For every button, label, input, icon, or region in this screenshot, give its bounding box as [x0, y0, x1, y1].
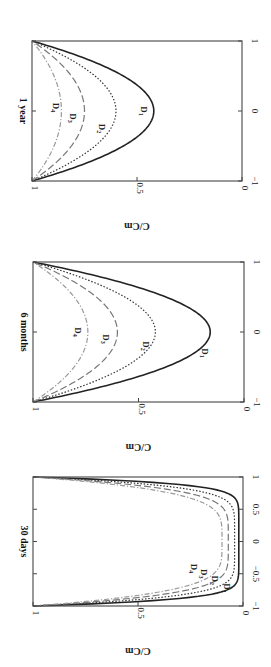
curve-label-d3: D3: [198, 569, 209, 579]
y-tick-label: 0: [242, 407, 252, 412]
x-tick-label: −0.5: [251, 566, 261, 583]
y-axis-label: C/Cm: [125, 442, 151, 453]
figure-three-panels: 00.51−1011 yearC/CmD1D2D3D400.51−1016 mo…: [0, 0, 271, 667]
x-tick-label: 0.5: [251, 504, 261, 516]
x-tick-label: −1: [250, 176, 260, 186]
plot-frame: [32, 41, 242, 181]
curve-label-d1: D1: [138, 106, 149, 116]
chart-panel-6-months: 00.51−1016 monthsC/CmD1D2D3D4: [19, 260, 262, 453]
x-tick-label: −1: [252, 397, 262, 407]
y-tick-label: 0.5: [137, 403, 147, 415]
chart-panel-1-year: 00.51−1011 yearC/CmD1D2D3D4: [18, 39, 260, 232]
y-tick-label: 1: [31, 611, 41, 616]
curve-d1: [33, 262, 210, 402]
y-tick-label: 0.5: [136, 607, 146, 619]
y-axis-label: C/Cm: [125, 646, 151, 657]
plot-frame: [33, 262, 244, 402]
curve-label-d3: D3: [67, 113, 78, 123]
curve-d2: [33, 477, 235, 606]
panel-title: 1 year: [18, 98, 29, 125]
panel-title: 30 days: [19, 526, 30, 558]
curve-label-d4: D4: [188, 564, 199, 574]
curve-label-d2: D2: [96, 124, 107, 134]
y-tick-label: 0: [240, 186, 250, 191]
x-tick-label: 0: [250, 109, 260, 114]
y-tick-label: 1: [31, 407, 41, 412]
curve-d2: [32, 41, 116, 181]
x-tick-label: −1: [251, 601, 261, 611]
x-tick-label: 1: [250, 39, 260, 44]
x-tick-label: 1: [252, 260, 262, 265]
curve-d1: [33, 477, 239, 606]
curve-d4: [33, 477, 222, 606]
curve-d4: [32, 41, 61, 181]
curve-label-d1: D1: [199, 348, 210, 358]
curve-label-d4: D4: [72, 327, 83, 337]
curve-label-d1: D1: [221, 583, 232, 593]
curve-d3: [32, 41, 85, 181]
curve-d3: [33, 477, 228, 606]
x-tick-label: 0: [251, 539, 261, 544]
curve-label-d4: D4: [50, 103, 61, 113]
x-tick-label: 0: [252, 330, 262, 335]
plot-frame: [33, 477, 243, 606]
chart-panel-30-days: 00.51−1−0.500.5130 daysC/CmD1D2D3D4: [19, 475, 261, 657]
panel-title: 6 months: [19, 312, 30, 351]
curve-d2: [33, 262, 155, 402]
curve-label-d2: D2: [209, 575, 220, 585]
curve-label-d3: D3: [100, 334, 111, 344]
y-axis-label: C/Cm: [124, 221, 150, 232]
y-tick-label: 0: [241, 611, 251, 616]
x-tick-label: 1: [251, 475, 261, 480]
y-tick-label: 1: [30, 186, 40, 191]
curve-label-d2: D2: [140, 341, 151, 351]
y-tick-label: 0.5: [135, 182, 145, 194]
